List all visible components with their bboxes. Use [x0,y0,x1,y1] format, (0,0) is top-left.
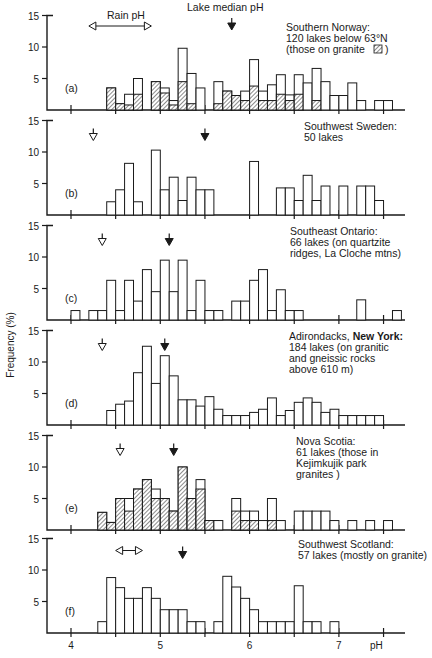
histogram-bar [303,398,312,425]
histogram-bar [276,521,285,530]
y-tick-label: 10 [28,357,40,368]
histogram-bar [142,588,151,633]
y-tick-label: 10 [28,462,40,473]
lake-median-ph-marker-icon [228,18,236,30]
histogram-bar [312,402,321,425]
histogram-bar [125,401,134,425]
histogram-bar [366,186,375,215]
panel-label: (d) [65,397,78,409]
panel-title-line: 50 lakes [304,131,343,143]
histogram-bar [196,190,205,215]
histogram-bar-granite [232,511,241,530]
histogram-bar [187,177,196,215]
histogram-bar [294,201,303,215]
histogram-bar-granite [160,93,169,110]
histogram-bar [196,622,205,633]
histogram-bar [169,177,178,215]
y-tick-label: 5 [33,494,39,505]
histogram-bar-granite [125,105,134,110]
histogram-bar-granite [142,480,151,530]
histogram-bar [339,96,348,110]
histogram-bar [392,311,401,320]
x-tick-label: 4 [68,640,74,651]
lake-median-ph-marker-icon [165,234,173,246]
histogram-bar [116,404,125,425]
x-tick-label: 6 [247,640,253,651]
lake-median-ph-marker-icon [201,129,209,141]
histogram-bar-granite [187,499,196,531]
histogram-bar [285,411,294,425]
y-tick-label: 15 [28,534,40,545]
histogram-bar [384,101,393,110]
rain-ph-marker-icon [116,444,124,456]
histogram-bar-granite [151,82,160,110]
histogram-bar [107,280,116,320]
histogram-bar [151,598,160,633]
panel-b: 51015(b)Southwest Sweden:50 lakes [28,116,405,220]
histogram-bar [321,82,330,110]
histogram-bar [348,83,357,110]
histogram-bar [357,416,366,425]
y-tick-label: 15 [28,326,40,337]
histogram-bar-granite [169,105,178,110]
histogram-bar [384,521,393,530]
histogram-bar [267,311,276,320]
histogram-bar-granite [107,88,116,110]
histogram-bar [214,521,223,530]
histogram-bar [241,416,250,425]
y-tick-label: 15 [28,116,40,127]
histogram-bar-granite [232,96,241,110]
histogram-bar [339,416,348,425]
histogram-bar [205,190,214,215]
histogram-bar [294,402,303,425]
histogram-bar-granite [241,101,250,110]
histogram-bar [366,521,375,530]
histogram-bar-granite [178,82,187,110]
y-tick-label: 15 [28,11,40,22]
rain-ph-marker-icon [98,234,106,246]
histogram-bar [285,188,294,215]
y-axis-label: Frequency (%) [5,312,16,378]
histogram-bar [151,150,160,215]
histogram-bar [125,598,134,633]
histogram-bar [312,511,321,530]
lake-median-ph-marker-icon [170,444,178,456]
histogram-bar [259,521,268,530]
histogram-bar [348,416,357,425]
histogram-bar [312,201,321,215]
histogram-bar [303,511,312,530]
y-tick-label: 10 [28,147,40,158]
panel-label: (f) [65,605,75,617]
top-annotations: Rain pH Lake median pH [107,1,263,21]
histogram-bar [223,416,232,425]
histogram-bar [214,409,223,425]
histogram-bar [107,202,116,215]
panel-f: 51015(f)Southwest Scotland:57 lakes (mos… [28,534,427,638]
panel-label: (e) [65,502,78,514]
histogram-bar-granite [134,94,143,110]
histogram-bar [160,610,169,633]
histogram-bar-granite [312,101,321,110]
histogram-bar-granite [116,104,125,110]
histogram-bar-granite [294,94,303,110]
histogram-bar-granite [285,101,294,110]
histogram-bar [375,101,384,110]
histogram-bar [116,588,125,633]
histogram-bar [312,622,321,633]
histogram-bar [232,416,241,425]
histogram-bar-granite [169,511,178,530]
svg-text:): ) [385,43,389,55]
panel-e: 51015(e)Nova Scotia:61 lakes (those inKe… [28,431,405,535]
rain-ph-range-arrow [89,22,152,30]
histogram-bar [250,412,259,425]
lake-median-ph-marker-icon [161,339,169,351]
histogram-bar [134,373,143,425]
histogram-bar [321,511,330,530]
histogram-bar [205,397,214,425]
histogram-bar [294,311,303,320]
histogram-bar-granite [151,499,160,531]
granite-legend-swatch [374,45,382,53]
histogram-bar-granite [250,521,259,530]
histogram-bar [303,83,312,110]
histogram-bar [276,622,285,633]
